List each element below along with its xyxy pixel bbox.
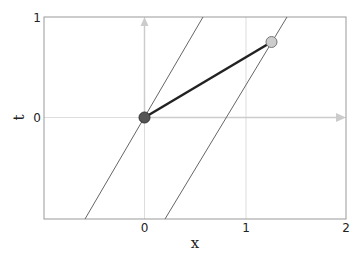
ytick-1: 1 <box>33 11 41 25</box>
diagram-canvas: 1 0 0 1 2 x t <box>0 0 363 263</box>
origin-event-dot <box>139 112 150 123</box>
xtick-0: 0 <box>141 221 149 235</box>
second-event-dot <box>266 37 277 48</box>
ytick-0: 0 <box>33 111 41 125</box>
xtick-2: 2 <box>342 221 350 235</box>
spacetime-diagram: 1 0 0 1 2 x t <box>0 0 363 263</box>
t-axis-label: t <box>10 114 28 120</box>
xtick-1: 1 <box>242 221 250 235</box>
t-axis-arrow <box>141 17 149 118</box>
x-axis-label: x <box>191 234 200 252</box>
x-axis-arrow <box>145 113 347 122</box>
event-segment <box>145 42 272 118</box>
